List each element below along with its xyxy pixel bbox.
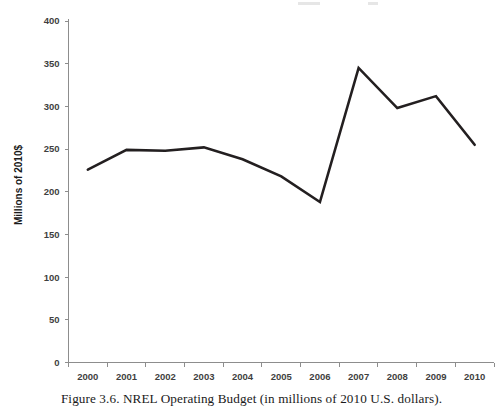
x-tick-label-2008: 2008 <box>387 371 408 382</box>
chart-plot-area: 050100150200250300350400 200020012002200… <box>0 0 503 390</box>
y-axis-tick-labels: 050100150200250300350400 <box>44 15 60 368</box>
y-tick-label-50: 50 <box>49 314 60 325</box>
figure-container: 050100150200250300350400 200020012002200… <box>0 0 503 413</box>
x-axis: 2000200120022003200420052006200720082009… <box>69 363 495 382</box>
x-tick-label-2003: 2003 <box>193 371 214 382</box>
y-tick-label-0: 0 <box>54 357 59 368</box>
y-tick-label-300: 300 <box>44 101 60 112</box>
y-tick-label-150: 150 <box>44 229 60 240</box>
y-axis: 050100150200250300350400 <box>44 15 69 368</box>
x-tick-label-2000: 2000 <box>77 371 98 382</box>
y-tick-label-100: 100 <box>44 272 60 283</box>
x-axis-ticks <box>69 363 495 368</box>
x-tick-label-2007: 2007 <box>348 371 369 382</box>
x-tick-label-2001: 2001 <box>116 371 138 382</box>
x-tick-label-2004: 2004 <box>232 371 254 382</box>
x-tick-label-2009: 2009 <box>425 371 446 382</box>
y-tick-label-400: 400 <box>44 15 60 26</box>
y-tick-label-200: 200 <box>44 186 60 197</box>
figure-caption: Figure 3.6. NREL Operating Budget (in mi… <box>0 391 503 407</box>
y-axis-ticks <box>65 21 69 363</box>
x-tick-label-2005: 2005 <box>271 371 293 382</box>
x-tick-label-2010: 2010 <box>464 371 485 382</box>
x-tick-label-2006: 2006 <box>309 371 330 382</box>
x-tick-label-2002: 2002 <box>155 371 176 382</box>
line-chart: 050100150200250300350400 200020012002200… <box>0 0 503 390</box>
scan-artifact <box>298 2 320 5</box>
x-axis-tick-labels: 2000200120022003200420052006200720082009… <box>77 371 485 382</box>
data-series-line <box>88 68 475 202</box>
y-axis-title: Millions of 2010$ <box>13 145 24 225</box>
y-tick-label-350: 350 <box>44 58 60 69</box>
y-tick-label-250: 250 <box>44 143 60 154</box>
scan-artifact <box>368 2 378 5</box>
